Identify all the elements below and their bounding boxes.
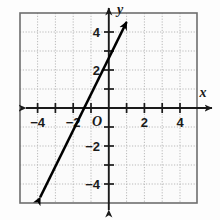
y-tick-label-4: 4: [93, 25, 101, 40]
x-tick-label-2: 2: [141, 115, 148, 130]
graph-canvas: −4 −2 2 4 4 2 −2 −4 O x y: [0, 0, 220, 220]
origin-label: O: [92, 114, 102, 129]
coordinate-graph: −4 −2 2 4 4 2 −2 −4 O x y: [0, 0, 220, 220]
x-tick-label-neg4: −4: [30, 115, 46, 130]
x-axis-label: x: [199, 85, 207, 100]
y-tick-label-neg2: −2: [85, 139, 100, 154]
y-tick-label-neg4: −4: [85, 177, 101, 192]
y-axis-label: y: [115, 2, 124, 17]
x-tick-label-4: 4: [176, 115, 184, 130]
